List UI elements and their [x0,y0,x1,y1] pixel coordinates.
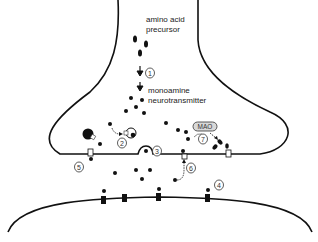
precursor-label-line2: precursor [146,25,180,34]
autoreceptor [88,149,93,156]
bound-ligands [102,187,210,193]
autoreceptor-ligand [89,157,93,161]
synthesis-arrows [137,66,143,91]
transmitter-label-line1: monoamine [148,86,190,95]
vesicle-empty [124,128,136,138]
step-2-marker: 2 [118,138,127,148]
svg-text:3: 3 [155,148,159,155]
svg-text:7: 7 [201,136,205,143]
precursor-label-line1: amino acid [146,15,185,24]
exocytosis-molecule [144,149,148,153]
svg-text:2: 2 [120,140,124,147]
step-1-marker: 1 [146,68,155,78]
step-4-marker: 4 [215,180,224,190]
mao-arrow [210,133,216,138]
transmitter-label-line2: neurotransmitter [148,96,207,105]
mao-enzyme: MAO [193,122,217,131]
reuptake-transporter [182,154,187,159]
svg-text:4: 4 [217,182,221,189]
metabolites [212,138,229,150]
vesicle-full [83,129,96,140]
vesicle-uptake-arrow [112,128,120,134]
step-5-marker: 5 [75,162,84,172]
cleft-molecules [113,168,177,182]
svg-text:MAO: MAO [198,123,213,130]
svg-text:5: 5 [77,164,81,171]
svg-text:6: 6 [189,165,193,172]
synapse-diagram: 1 amino acid precursor monoamine neurotr… [0,0,318,242]
postsynaptic-membrane [8,197,312,232]
reuptake-arrow [177,162,184,180]
membrane-transporter [226,150,231,157]
step-6-marker: 6 [187,163,196,173]
step-7-marker: 7 [199,134,208,144]
svg-text:1: 1 [148,70,152,77]
precursor-molecules [133,36,148,57]
step-3-marker: 3 [153,146,162,156]
